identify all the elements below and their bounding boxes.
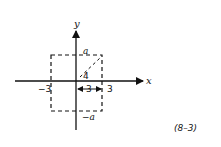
coordinate-diagram: y x a −a −3 3 4 3 (8–3) bbox=[0, 0, 221, 147]
tick-label-left: −3 bbox=[38, 84, 51, 94]
bottom-label-neg-a: −a bbox=[82, 112, 95, 122]
y-axis-label: y bbox=[73, 18, 80, 29]
diagonal-label: 4 bbox=[83, 71, 89, 81]
x-axis-label: x bbox=[146, 75, 152, 86]
tick-label-right: 3 bbox=[107, 84, 113, 94]
half-width-label: 3 bbox=[86, 84, 92, 94]
equation-number: (8–3) bbox=[174, 123, 197, 133]
top-label-a: a bbox=[83, 46, 88, 56]
